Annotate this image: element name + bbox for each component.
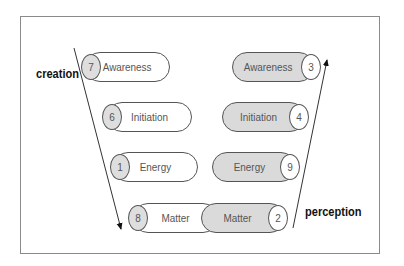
creation-label: creation	[36, 67, 79, 81]
right-badge-matter: 2	[268, 205, 288, 231]
right-badge-initiation: 4	[289, 104, 309, 130]
pill-label: Initiation	[131, 111, 168, 123]
left-badge-initiation: 6	[102, 104, 122, 130]
right-badge-energy: 9	[280, 154, 300, 180]
pill-label: Initiation	[240, 111, 277, 123]
pill-label: Awareness	[103, 61, 152, 73]
pill-label: Matter	[224, 212, 252, 224]
right-badge-awareness: 3	[301, 54, 321, 80]
perception-label: perception	[305, 205, 361, 219]
perception-arrow	[293, 60, 327, 228]
left-badge-awareness: 7	[81, 54, 101, 80]
pill-label: Energy	[233, 161, 264, 173]
left-badge-energy: 1	[110, 154, 130, 180]
pill-label: Matter	[161, 212, 189, 224]
pill-label: Energy	[140, 161, 171, 173]
left-badge-matter: 8	[128, 205, 148, 231]
pill-label: Awareness	[244, 61, 293, 73]
